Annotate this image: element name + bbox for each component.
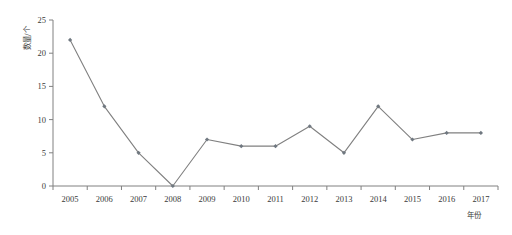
y-axis-tick-label: 10 [38,115,47,125]
x-axis-tick-label: 2008 [164,194,181,204]
x-axis-tick-label: 2009 [199,194,216,204]
x-axis-tick-label: 2016 [438,194,455,204]
y-axis-title: 数量/个 [22,25,32,50]
y-axis-tick-label: 15 [38,81,47,91]
x-axis-tick-label: 2005 [62,194,79,204]
x-axis-tick-label: 2013 [335,194,352,204]
x-axis-tick-label: 2014 [370,194,388,204]
chart-page: 0510152025 20052006200720082009201020112… [0,0,512,235]
x-axis-tick-label: 2006 [96,194,113,204]
x-axis-tick-label: 2017 [472,194,489,204]
y-axis-tick-label: 25 [38,15,47,25]
y-axis-tick-label: 0 [42,181,46,191]
x-axis-title: 年份 [467,210,482,220]
line-chart: 0510152025 20052006200720082009201020112… [0,0,512,235]
x-axis-tick-label: 2012 [301,194,318,204]
x-axis-tick-label: 2015 [404,194,421,204]
x-axis-tick-label: 2007 [130,194,147,204]
x-axis-tick-label: 2010 [233,194,250,204]
x-axis-tick-label: 2011 [267,194,284,204]
y-axis-tick-label: 5 [42,148,46,158]
y-axis-tick-label: 20 [38,48,47,58]
